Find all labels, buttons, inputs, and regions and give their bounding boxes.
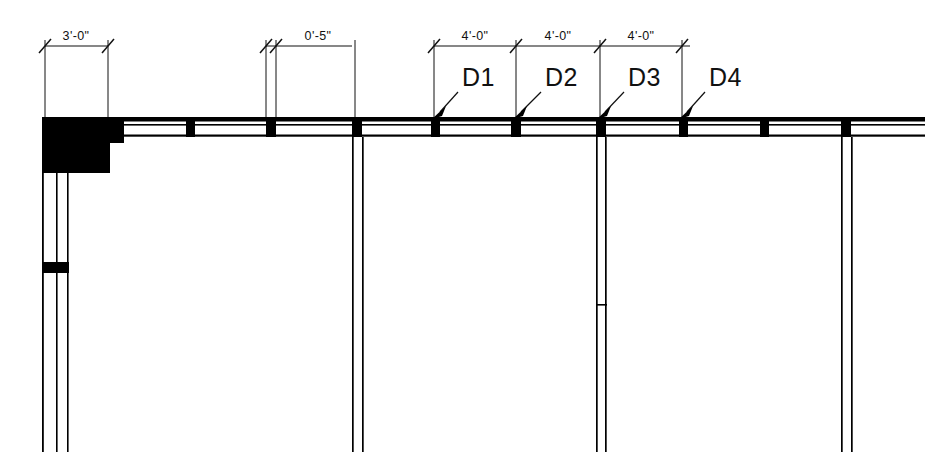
dimension-label-4-0-c: 4'-0" [628,29,655,43]
door-tag-d4: D4 [709,63,742,91]
partition-b-right-line [605,137,607,452]
partition-c-right-line [851,137,853,452]
left-wall-stud [42,262,69,273]
corner-block-main [42,117,110,173]
stud-4-d1 [431,117,440,137]
door-tag-d3: D3 [628,63,661,91]
partition-c-left-line [841,137,843,452]
stud-6-d3 [596,117,606,137]
stud-3 [352,117,362,137]
partition-b-tick [596,304,607,306]
stud-8 [760,117,769,137]
stud-9 [841,117,851,137]
dimension-label-4-0-a: 4'-0" [462,29,489,43]
door-tag-d2: D2 [545,63,578,91]
left-wall-mid-line [56,173,58,452]
floor-plan-canvas: 3'-0" 0'-5" 4'-0" 4'-0" 4'-0" D1 [0,0,950,454]
partition-a-left-line [352,137,354,452]
stud-7-d4 [679,117,688,137]
stud-2 [266,117,276,137]
left-wall-outer-line [42,173,44,452]
stud-1 [186,117,195,137]
top-wall-outer-face [42,117,925,122]
dimension-label-4-0-b: 4'-0" [545,29,572,43]
partition-a-right-line [362,137,364,452]
left-wall-inner-line [67,173,69,452]
door-tag-d1: D1 [462,63,495,91]
dimension-label-3-0: 3'-0" [63,29,90,43]
stud-5-d2 [511,117,521,137]
dimension-label-0-5: 0'-5" [305,29,332,43]
partition-b-left-line [596,137,598,452]
corner-block-return [110,117,124,143]
architectural-floor-plan: 3'-0" 0'-5" 4'-0" 4'-0" 4'-0" D1 [0,0,950,454]
